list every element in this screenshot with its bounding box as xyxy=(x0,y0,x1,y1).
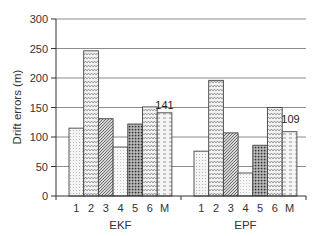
x-tick-label: 4 xyxy=(242,202,248,214)
bar-epf-1 xyxy=(194,151,209,196)
y-tick-label: 100 xyxy=(30,131,48,143)
bars xyxy=(69,51,297,196)
bar-ekf-5 xyxy=(128,124,143,196)
x-tick-label: 2 xyxy=(88,202,94,214)
y-tick-label: 300 xyxy=(30,13,48,25)
data-label-ekf-m: 141 xyxy=(155,99,173,111)
x-tick-label: 6 xyxy=(147,202,153,214)
bar-epf-2 xyxy=(209,80,224,196)
x-tick-label: 1 xyxy=(198,202,204,214)
x-tick-label: 4 xyxy=(117,202,123,214)
x-tick-label: 5 xyxy=(132,202,138,214)
x-tick-label: 2 xyxy=(213,202,219,214)
bar-ekf-1 xyxy=(69,128,84,196)
x-tick-label: 3 xyxy=(103,202,109,214)
x-tick-label: 6 xyxy=(272,202,278,214)
bar-epf-6 xyxy=(268,108,283,197)
bar-epf-5 xyxy=(253,145,268,196)
bar-ekf-3 xyxy=(98,119,113,196)
y-axis-title: Drift errors (m) xyxy=(11,69,23,144)
y-tick-label: 150 xyxy=(30,102,48,114)
bar-ekf-4 xyxy=(113,147,128,196)
group-label-epf: EPF xyxy=(234,219,256,231)
x-tick-label: 1 xyxy=(73,202,79,214)
data-label-epf-m: 109 xyxy=(281,113,299,125)
y-tick-label: 250 xyxy=(30,43,48,55)
y-tick-label: 50 xyxy=(36,161,48,173)
x-tick-label: 5 xyxy=(257,202,263,214)
y-tick-label: 0 xyxy=(42,190,48,202)
bar-ekf-6 xyxy=(143,107,158,196)
bar-epf-m xyxy=(282,132,297,196)
bar-chart: 050100150200250300123456MEKF123456MEPF14… xyxy=(0,0,322,236)
bar-epf-3 xyxy=(223,133,238,196)
x-tick-label: 3 xyxy=(228,202,234,214)
bar-ekf-2 xyxy=(84,51,99,196)
bar-epf-4 xyxy=(238,173,253,196)
x-tick-label: M xyxy=(285,202,294,214)
bar-ekf-m xyxy=(157,113,172,196)
y-tick-label: 200 xyxy=(30,72,48,84)
x-tick-label: M xyxy=(160,202,169,214)
group-label-ekf: EKF xyxy=(109,219,131,231)
